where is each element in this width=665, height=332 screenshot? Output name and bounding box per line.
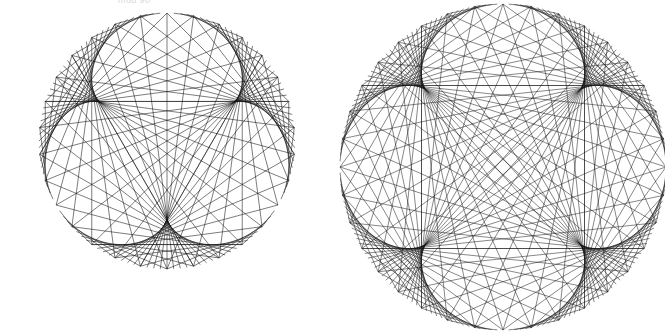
figure-canvas: mod 90 <box>0 0 665 332</box>
string-art-svg <box>0 0 665 332</box>
chord-bundle <box>39 13 295 269</box>
center-hole-marker <box>499 163 504 168</box>
figure-deltoid <box>39 13 295 269</box>
